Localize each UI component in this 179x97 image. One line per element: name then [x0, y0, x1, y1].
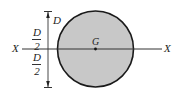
axis-label-right: X: [164, 43, 171, 54]
cross-section-diagram: [0, 0, 179, 97]
lower-half-numerator: D: [32, 52, 42, 63]
lower-half-denominator: 2: [33, 66, 41, 77]
lower-half-label: D 2: [32, 52, 42, 77]
diameter-label: D: [53, 15, 61, 26]
arrow-down-icon: [46, 81, 50, 87]
arrow-up-icon: [46, 12, 50, 18]
upper-half-label: D 2: [32, 27, 42, 52]
upper-half-numerator: D: [32, 27, 42, 38]
centroid-label: G: [92, 37, 99, 47]
centroid-point: [94, 48, 97, 51]
axis-label-left: X: [12, 43, 19, 54]
